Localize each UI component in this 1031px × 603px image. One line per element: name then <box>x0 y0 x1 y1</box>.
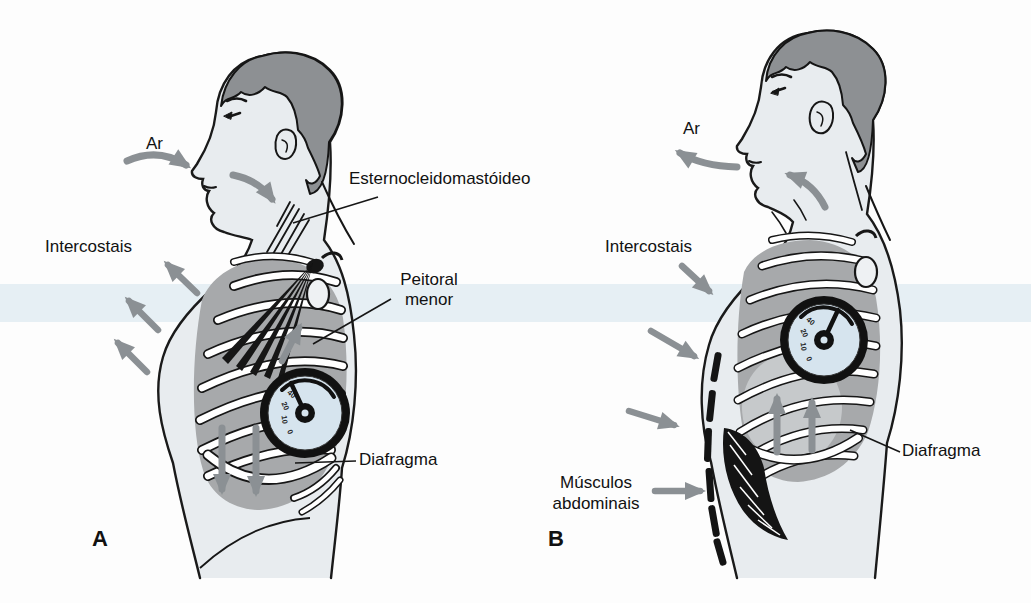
label-intercostals-a: Intercostais <box>45 237 132 257</box>
humeral-head <box>855 257 877 287</box>
intercostal-arrow <box>682 266 709 291</box>
svg-text:10: 10 <box>798 342 808 352</box>
intercostal-arrow <box>118 343 147 372</box>
figure-b-illustration: 40 20 10 0 <box>629 31 902 578</box>
label-air-a: Ar <box>146 134 163 154</box>
label-diaphragm-a: Diafragma <box>359 450 437 470</box>
ear <box>275 130 296 159</box>
anatomy-artwork: 40 20 10 0 <box>0 0 1031 603</box>
humeral-head <box>307 279 329 309</box>
label-air-b: Ar <box>683 119 700 139</box>
figure-a-illustration: 40 20 10 0 <box>118 53 391 578</box>
intercostal-arrow <box>168 265 197 293</box>
intercostal-arrow <box>129 301 158 330</box>
airflow-in-arrow <box>127 155 186 165</box>
ear <box>810 102 833 134</box>
respiratory-mechanics-diagram: 40 20 10 0 <box>0 0 1031 603</box>
label-pectoralis-minor: Peitoral menor <box>385 270 473 310</box>
pressure-gauge-a: 40 20 10 0 <box>260 368 350 458</box>
svg-text:10: 10 <box>279 415 289 425</box>
pressure-gauge-b: 40 20 10 0 <box>780 296 868 384</box>
chest-compression-arrow <box>651 331 694 356</box>
label-intercostals-b: Intercostais <box>605 237 692 257</box>
panel-letter-a: A <box>92 529 108 549</box>
airflow-out-arrow <box>680 153 737 167</box>
label-diaphragm-b: Diafragma <box>902 441 980 461</box>
label-abdominal-muscles: Músculos abdominais <box>534 472 658 514</box>
chest-compression-arrow <box>629 411 674 425</box>
label-sternocleidomastoid: Esternocleidomastóideo <box>349 169 530 189</box>
panel-letter-b: B <box>548 529 564 549</box>
